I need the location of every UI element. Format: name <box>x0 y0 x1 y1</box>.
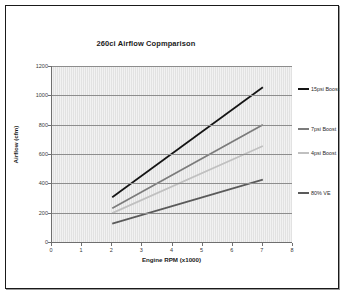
series-line <box>112 180 263 224</box>
legend-label: 15psi Boost <box>311 86 339 92</box>
x-tick-mark <box>81 243 82 246</box>
x-tick-label: 6 <box>222 247 242 253</box>
chart-legend: 15psi Boost7psi Boost4psi Boost80% VE <box>298 66 346 242</box>
y-tick-label: 600 <box>24 151 48 157</box>
chart-frame: 260ci Airflow Copmparison 02004006008001… <box>5 5 339 289</box>
legend-label: 7psi Boost <box>311 126 336 132</box>
x-tick-mark <box>172 243 173 246</box>
y-axis-ticks: 020040060080010001200 <box>22 66 48 242</box>
legend-item[interactable]: 80% VE <box>298 190 330 196</box>
x-tick-label: 8 <box>282 247 302 253</box>
x-tick-mark <box>232 243 233 246</box>
legend-item[interactable]: 4psi Boost <box>298 150 336 156</box>
gridline <box>52 183 292 184</box>
series-line <box>112 87 263 197</box>
legend-item[interactable]: 7psi Boost <box>298 126 336 132</box>
legend-label: 80% VE <box>311 190 330 196</box>
legend-swatch-icon <box>298 192 309 194</box>
x-axis-ticks: 012345678 <box>51 243 292 255</box>
y-tick-label: 200 <box>24 210 48 216</box>
chart-title: 260ci Airflow Copmparison <box>6 39 286 48</box>
gridline <box>52 125 292 126</box>
gridline <box>52 95 292 96</box>
y-tick-label: 400 <box>24 180 48 186</box>
x-tick-mark <box>202 243 203 246</box>
legend-swatch-icon <box>298 128 309 130</box>
y-tick-label: 0 <box>24 239 48 245</box>
x-tick-mark <box>111 243 112 246</box>
x-tick-mark <box>262 243 263 246</box>
x-tick-label: 0 <box>41 247 61 253</box>
legend-swatch-icon <box>298 152 309 154</box>
gridline <box>52 154 292 155</box>
x-tick-label: 1 <box>71 247 91 253</box>
y-tick-label: 1000 <box>24 92 48 98</box>
y-axis-title: Airflow (cfm) <box>12 115 19 175</box>
series-line <box>112 146 263 213</box>
x-tick-label: 2 <box>101 247 121 253</box>
x-tick-label: 7 <box>252 247 272 253</box>
plot-area <box>51 66 292 242</box>
x-tick-label: 3 <box>131 247 151 253</box>
x-tick-mark <box>51 243 52 246</box>
gridline <box>52 66 292 67</box>
legend-label: 4psi Boost <box>311 150 336 156</box>
x-tick-mark <box>292 243 293 246</box>
series-line <box>112 125 263 209</box>
legend-item[interactable]: 15psi Boost <box>298 86 339 92</box>
y-tick-label: 1200 <box>24 63 48 69</box>
gridline <box>52 213 292 214</box>
legend-swatch-icon <box>298 88 309 90</box>
x-axis-title: Engine RPM (x1000) <box>51 256 292 263</box>
y-tick-label: 800 <box>24 122 48 128</box>
x-tick-label: 4 <box>162 247 182 253</box>
plot-area-wrapper <box>51 66 292 242</box>
x-tick-label: 5 <box>192 247 212 253</box>
x-tick-mark <box>141 243 142 246</box>
